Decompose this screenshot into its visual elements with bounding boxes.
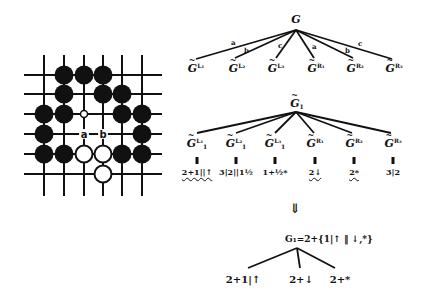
tree1-edge-label: b [345,47,350,54]
leaf-sup: R₃ [395,62,403,69]
leaf-sup: L₁ [197,62,204,69]
leaf-g: G [385,63,394,74]
black-stone [35,145,54,164]
black-stone [55,105,74,124]
black-stone [94,66,113,85]
leaf-g: G [226,138,235,149]
tree1-leaf-label: GR₂ [346,63,363,74]
small-white-marker [81,111,88,118]
equivalence-bar [235,157,238,164]
tree1-root-label: G [291,14,300,25]
tree2-leaf-label: GR₃ [384,138,401,149]
tree2-leaf-value: 1+½* [263,168,288,176]
tree2-root-sub: 1 [300,103,304,110]
equivalence-bar [392,157,395,164]
white-stone [95,166,112,183]
leaf-sub: 1 [281,143,285,150]
tree1-root-text: G [291,13,300,26]
tree1-edge-label: a [312,43,317,50]
tree1-edges [196,30,392,59]
tree2-leaf-value: 3|2 [386,168,400,176]
tree1-edge-label: a [231,39,236,46]
go-board: ab [24,55,162,196]
leaf-sub: 1 [242,143,246,150]
result-child-label: 2+* [330,275,351,285]
white-stone [95,146,112,163]
leaf-sub: 1 [203,143,207,150]
black-stone [55,145,74,164]
tree2-leaf-label: GL₁1 [187,138,207,150]
tree1-leaf-label: GL₂ [229,63,245,74]
tree2-leaf-value: 2* [349,168,359,176]
equivalence-bar [196,157,199,164]
point-label-a: a [81,129,88,140]
black-stone [75,66,94,85]
leaf-sup: R₁ [316,137,324,144]
tree1-edge-label: c [278,42,282,49]
leaf-g: G [345,138,354,149]
tree1-leaf-label: GL₁ [188,63,204,74]
result-child-label: 2+↓ [289,275,313,285]
tree2-leaf-value: 2↓ [309,168,321,176]
result-tree-edges [248,248,335,268]
black-stone [94,85,113,104]
leaf-g: G [265,138,274,149]
leaf-g: G [307,63,316,74]
black-stone [113,105,132,124]
point-label-b: b [99,129,106,140]
black-stone [35,125,54,144]
tree2-leaf-value: 3|2||1½ [219,168,253,176]
leaf-g: G [346,63,355,74]
tree1-edge-label: b [244,47,249,54]
tree1-leaf-label: GR₁ [307,63,324,74]
tree1-leaf-label: GL₃ [268,63,284,74]
result-edge [248,248,297,268]
result-edge [297,248,335,268]
equivalence-bar [274,157,277,164]
black-stone [133,145,152,164]
black-stone [133,105,152,124]
leaf-sup: R₂ [355,137,363,144]
leaf-g: G [188,63,197,74]
black-stone [113,145,132,164]
leaf-sup: R₃ [394,137,402,144]
tree2-leaf-label: GL₂1 [226,138,246,150]
black-stone [55,85,74,104]
result-child-label: 2+1|↑ [226,275,260,285]
equivalence-bar [314,157,317,164]
tree1-leaf-label: GR₃ [385,63,402,74]
tree2-leaf-label: GR₁ [306,138,323,149]
leaf-sup: R₂ [356,62,364,69]
tree2-leaf-value: 2+1||↑ [182,168,212,176]
down-double-arrow-icon: ⇓ [290,202,301,215]
tree2-leaf-label: GR₂ [345,138,362,149]
equivalence-bar [353,157,356,164]
tree2-root-label: G1 [290,98,304,110]
leaf-g: G [306,138,315,149]
result-edge [297,248,300,268]
leaf-g: G [229,63,238,74]
black-stone [55,66,74,85]
tree2-leaf-label: GL₃1 [265,138,285,150]
black-stone [133,125,152,144]
leaf-sup: L₂ [238,62,245,69]
leaf-g: G [187,138,196,149]
leaf-sup: L₃ [277,62,284,69]
leaf-g: G [384,138,393,149]
black-stone [113,85,132,104]
leaf-g: G [268,63,277,74]
tree2-root-text: G [290,98,299,109]
white-stone [76,146,93,163]
leaf-sup: R₁ [317,62,325,69]
tree1-edge-label: c [358,40,362,47]
result-equation: G₁=2+{1|↑ ‖ ↓,*} [285,235,373,244]
black-stone [35,105,54,124]
